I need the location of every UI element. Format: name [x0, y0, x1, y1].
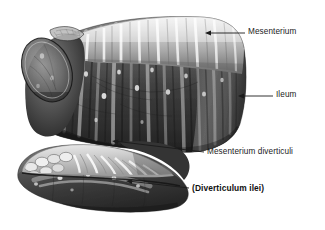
cut-edge-flap	[50, 27, 84, 41]
label-ileum: Ileum	[276, 90, 297, 100]
label-diverticulum-ilei: (Diverticulum ilei)	[192, 183, 264, 193]
label-mesenterium: Mesenterium	[248, 27, 296, 37]
label-mesenterium-diverticuli: Mesenterium diverticuli	[207, 147, 293, 157]
leader-ileum	[238, 94, 273, 99]
figure-root: Mesenterium Ileum Mesenterium diverticul…	[0, 0, 325, 230]
